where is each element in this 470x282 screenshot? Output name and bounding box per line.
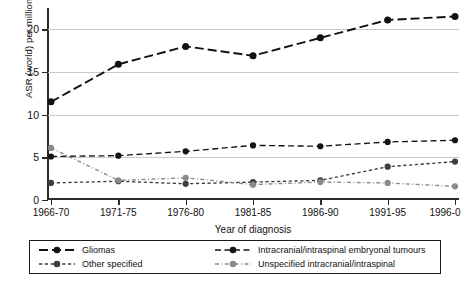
y-axis-tick-label: 0 xyxy=(33,195,39,206)
data-point xyxy=(250,182,256,188)
y-axis-tick-label: 20 xyxy=(27,24,39,35)
x-axis-tick-label: 1991-95 xyxy=(369,208,406,218)
x-axis-tick-label: 1996-0 xyxy=(429,208,460,218)
data-point xyxy=(182,43,189,50)
data-point xyxy=(452,159,458,165)
data-point xyxy=(385,164,391,170)
legend-label: Intracranial/intraspinal embryonal tumou… xyxy=(258,245,426,255)
y-axis-tick-label: 5 xyxy=(33,152,39,163)
data-point xyxy=(385,180,391,186)
x-axis-title: Year of diagnosis xyxy=(47,224,459,235)
legend-marker-icon xyxy=(38,244,76,256)
series-layer xyxy=(47,8,459,200)
data-point xyxy=(183,148,189,154)
data-point xyxy=(452,137,458,143)
legend-label: Other specified xyxy=(82,259,143,269)
data-point xyxy=(452,183,458,189)
data-point xyxy=(250,52,257,59)
x-axis-tick-label: 1986-90 xyxy=(302,208,339,218)
chart-legend: GliomasIntracranial/intraspinal embryona… xyxy=(29,240,441,274)
plot-area: 05101520 1966-701971-751976-801981-85198… xyxy=(47,8,459,200)
y-axis-tick-label: 10 xyxy=(27,109,39,120)
series-1 xyxy=(48,13,459,105)
data-point xyxy=(384,16,391,23)
data-point xyxy=(317,143,323,149)
data-point xyxy=(48,153,54,159)
data-point xyxy=(317,34,324,41)
data-point xyxy=(48,145,54,151)
legend-item-3[interactable]: Other specified xyxy=(38,258,214,270)
data-point xyxy=(115,153,121,159)
data-point xyxy=(183,175,189,181)
x-axis-tick-label: 1971-75 xyxy=(100,208,137,218)
legend-marker-icon xyxy=(214,244,252,256)
data-point xyxy=(250,142,256,148)
legend-marker-icon xyxy=(214,258,252,270)
data-point xyxy=(115,61,122,68)
data-point xyxy=(452,13,459,20)
y-axis-tick xyxy=(42,200,48,201)
data-point xyxy=(115,177,121,183)
series-2 xyxy=(48,137,458,159)
x-axis-tick-label: 1966-70 xyxy=(33,208,70,218)
legend-marker-icon xyxy=(38,258,76,270)
y-axis-tick-label: 15 xyxy=(27,67,39,78)
data-point xyxy=(48,98,55,105)
data-point xyxy=(317,179,323,185)
data-point xyxy=(183,181,189,187)
legend-label: Unspecified intracranial/intraspinal xyxy=(258,259,395,269)
y-axis-title: ASR (world) per million child-years xyxy=(23,0,34,114)
chart-container: ASR (world) per million child-years 0510… xyxy=(0,0,470,282)
data-point xyxy=(385,139,391,145)
legend-label: Gliomas xyxy=(82,245,115,255)
x-axis-tick-label: 1981-85 xyxy=(235,208,272,218)
legend-item-2[interactable]: Intracranial/intraspinal embryonal tumou… xyxy=(214,244,434,256)
series-4 xyxy=(48,145,458,190)
legend-item-1[interactable]: Gliomas xyxy=(38,244,214,256)
legend-item-4[interactable]: Unspecified intracranial/intraspinal xyxy=(214,258,434,270)
data-point xyxy=(48,180,54,186)
x-axis-tick-label: 1976-80 xyxy=(167,208,204,218)
